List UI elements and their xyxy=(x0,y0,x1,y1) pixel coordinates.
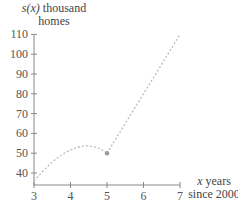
y-tick-label: 90 xyxy=(16,67,28,81)
x-tick-label: 4 xyxy=(68,189,74,203)
x-tick-label: 7 xyxy=(177,189,183,203)
y-tick-label: 60 xyxy=(16,126,28,140)
x-tick-label: 3 xyxy=(31,189,37,203)
y-ticks: 405060708090100110 xyxy=(10,27,37,180)
y-tick-label: 50 xyxy=(16,146,28,160)
linear-segment xyxy=(107,34,180,153)
x-tick-label: 6 xyxy=(141,189,147,203)
curve-segment xyxy=(34,146,107,181)
y-tick-label: 40 xyxy=(16,166,28,180)
data-point-marker xyxy=(105,151,109,155)
y-tick-label: 70 xyxy=(16,107,28,121)
x-tick-label: 5 xyxy=(104,189,110,203)
plot-series xyxy=(34,34,180,181)
chart-canvas: 405060708090100110 34567 xyxy=(0,0,238,210)
y-tick-label: 80 xyxy=(16,87,28,101)
axes xyxy=(34,34,180,185)
y-tick-label: 100 xyxy=(10,47,28,61)
y-tick-label: 110 xyxy=(10,27,28,41)
